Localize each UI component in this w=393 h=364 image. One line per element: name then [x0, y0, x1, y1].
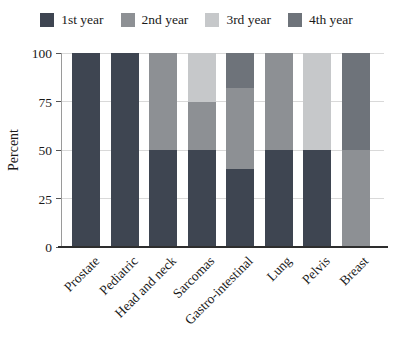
- bar-segment-pelvis-1st-year: [303, 150, 331, 247]
- y-tick-label: 25: [18, 193, 52, 207]
- bar-segment-pelvis-3rd-year: [303, 53, 331, 150]
- bar-segment-gastro-intestinal-4th-year: [226, 53, 254, 88]
- bar-segment-lung-1st-year: [265, 150, 293, 247]
- y-tick-label: 0: [18, 241, 52, 255]
- y-axis-line: [61, 53, 62, 247]
- x-category-label: Lung: [264, 254, 294, 284]
- bar-segment-sarcomas-1st-year: [188, 150, 216, 247]
- bar-segment-pediatric-1st-year: [111, 53, 139, 247]
- y-axis-title: Percent: [6, 129, 22, 171]
- y-tick-mark: [56, 150, 61, 151]
- bar-segment-breast-4th-year: [342, 53, 370, 150]
- plot-area: 0255075100ProstatePediatricHead and neck…: [0, 0, 393, 364]
- bar-segment-breast-2nd-year: [342, 150, 370, 247]
- bar-segment-gastro-intestinal-1st-year: [226, 169, 254, 247]
- y-tick-mark: [56, 198, 61, 199]
- y-tick-label: 75: [18, 96, 52, 110]
- bar-segment-sarcomas-2nd-year: [188, 102, 216, 151]
- bar-segment-prostate-1st-year: [72, 53, 100, 247]
- x-category-label: Prostate: [61, 254, 101, 294]
- bar-segment-sarcomas-3rd-year: [188, 53, 216, 102]
- bar-segment-head-and-neck-2nd-year: [149, 53, 177, 150]
- bar-segment-gastro-intestinal-2nd-year: [226, 88, 254, 169]
- x-category-label: Pelvis: [300, 254, 333, 287]
- y-tick-label: 100: [18, 47, 52, 61]
- bar-segment-head-and-neck-1st-year: [149, 150, 177, 247]
- y-tick-mark: [56, 53, 61, 54]
- bar-segment-lung-2nd-year: [265, 53, 293, 150]
- y-tick-mark: [56, 101, 61, 102]
- x-axis-line: [58, 246, 388, 248]
- x-category-label: Breast: [337, 254, 371, 288]
- y-tick-label: 50: [18, 144, 52, 158]
- stacked-bar-chart-figure: 1st year2nd year3rd year4th year 0255075…: [0, 0, 393, 364]
